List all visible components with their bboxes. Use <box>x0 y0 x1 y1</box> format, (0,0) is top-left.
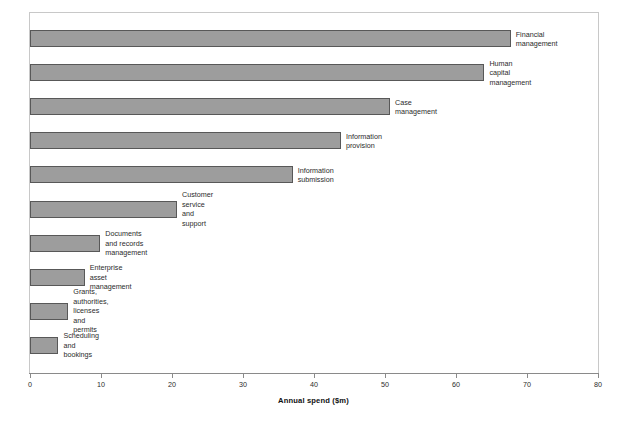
bar <box>30 201 177 218</box>
x-axis-tick-label: 30 <box>239 380 247 389</box>
chart-canvas: Financial managementHuman capital manage… <box>0 0 627 421</box>
x-axis-tick <box>243 373 244 378</box>
bar <box>30 132 341 149</box>
x-axis-tick-label: 40 <box>310 380 318 389</box>
bar-label: Information submission <box>298 165 334 184</box>
bar <box>30 166 293 183</box>
bar <box>30 269 85 286</box>
bar <box>30 337 58 354</box>
x-axis-tick-label: 0 <box>28 380 32 389</box>
bar-label: Scheduling and bookings <box>63 331 99 360</box>
x-axis-tick-label: 20 <box>168 380 176 389</box>
x-axis-tick <box>598 373 599 378</box>
bar <box>30 30 511 47</box>
bar-label: Case management <box>395 97 437 116</box>
bar <box>30 303 68 320</box>
bar-label: Human capital management <box>489 58 531 87</box>
x-axis-tick <box>172 373 173 378</box>
x-axis-tick-label: 10 <box>97 380 105 389</box>
x-axis-tick <box>314 373 315 378</box>
bar <box>30 64 484 81</box>
x-axis-title: Annual spend ($m) <box>0 396 627 405</box>
bar-label: Customer service and support <box>182 190 213 228</box>
bar <box>30 235 100 252</box>
bar-series: Financial managementHuman capital manage… <box>30 13 598 372</box>
x-axis-tick-label: 50 <box>381 380 389 389</box>
x-axis-tick <box>527 373 528 378</box>
x-axis-tick <box>101 373 102 378</box>
x-axis-tick-label: 60 <box>452 380 460 389</box>
bar-label: Financial management <box>516 29 558 48</box>
x-axis-tick <box>385 373 386 378</box>
x-axis-tick <box>30 373 31 378</box>
bar-label: Information provision <box>346 131 382 150</box>
x-axis-tick-label: 70 <box>523 380 531 389</box>
x-axis-tick-label: 80 <box>594 380 602 389</box>
x-axis-tick <box>456 373 457 378</box>
bar <box>30 98 390 115</box>
bar-label: Grants, authorities, licenses and permit… <box>73 288 108 336</box>
bar-label: Documents and records management <box>105 229 147 258</box>
